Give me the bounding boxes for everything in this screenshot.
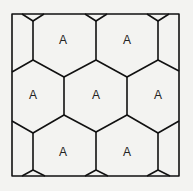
cell-label: A <box>123 145 131 159</box>
bottom-edges <box>33 132 158 170</box>
upper-zigzag <box>12 60 179 77</box>
lower-zigzag <box>12 115 179 133</box>
cell-label: A <box>59 145 67 159</box>
cell-label: A <box>154 88 162 102</box>
top-notches <box>22 14 169 21</box>
hexagon-grid-diagram: A A A A A A A <box>0 0 193 191</box>
top-edges <box>33 21 158 60</box>
cell-label: A <box>123 33 131 47</box>
bottom-notches <box>22 170 170 176</box>
cell-label: A <box>92 88 100 102</box>
cell-label: A <box>59 33 67 47</box>
cell-label: A <box>29 88 37 102</box>
